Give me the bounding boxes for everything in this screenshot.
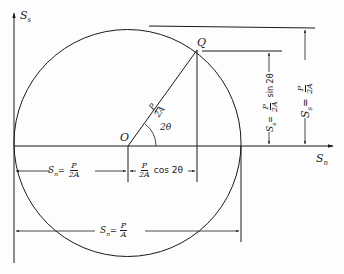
diameter-label: Sn= PA: [100, 222, 127, 239]
point-q-label: Q: [197, 37, 206, 48]
horizontal-projection-label: P2A cos 2θ: [138, 162, 183, 179]
mohr-circle-diagram: Ss Sn O Q P2A 2θ Sn= P2A P2A cos 2θ Sn= …: [0, 0, 344, 274]
sn-axis-label: Sn: [316, 153, 328, 167]
ss-axis-label: Ss: [20, 10, 31, 24]
vertical-projection-label: Ss= P2A sin 2θ: [262, 73, 279, 132]
center-offset-label: Sn= P2A: [48, 162, 81, 179]
diagram-lines: [0, 0, 344, 274]
angle-label: 2θ: [160, 123, 171, 132]
point-o-label: O: [120, 132, 129, 143]
max-shear-label: Ss= P2A: [297, 82, 314, 118]
